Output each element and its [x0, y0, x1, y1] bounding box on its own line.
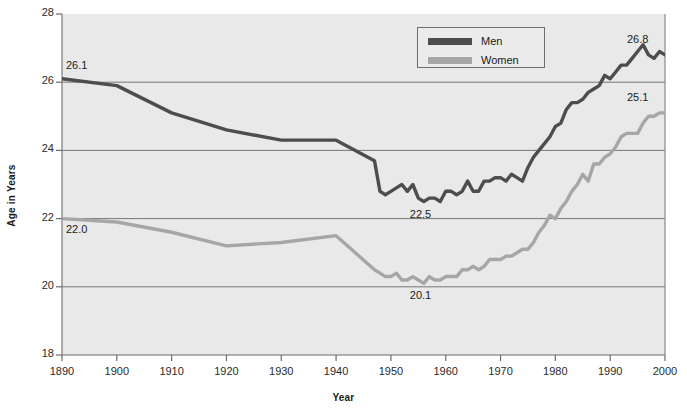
- y-tick-label: 22: [28, 211, 54, 223]
- y-tick-label: 20: [28, 279, 54, 291]
- y-tick-label: 28: [28, 6, 54, 18]
- x-tick-label: 1910: [150, 365, 194, 377]
- x-axis-title: Year: [0, 392, 687, 403]
- y-tick-label: 18: [28, 347, 54, 359]
- y-axis-title: Age in Years: [6, 146, 17, 246]
- plot-background: [62, 14, 665, 355]
- x-tick-label: 1950: [369, 365, 413, 377]
- legend-item-women: Women: [428, 54, 519, 66]
- x-tick-label: 1890: [40, 365, 84, 377]
- data-label-men-26-1: 26.1: [66, 59, 87, 71]
- x-tick-label: 1930: [259, 365, 303, 377]
- legend-item-men: Men: [428, 35, 502, 47]
- x-tick-label: 1980: [533, 365, 577, 377]
- data-label-men-26-8: 26.8: [627, 33, 648, 45]
- x-tick-label: 1960: [424, 365, 468, 377]
- chart-plot-area: [0, 0, 687, 414]
- legend-label-women: Women: [481, 54, 519, 66]
- x-tick-label: 1900: [95, 365, 139, 377]
- data-label-men-22-5: 22.5: [410, 208, 431, 220]
- legend-label-men: Men: [481, 35, 502, 47]
- legend-swatch-women: [428, 57, 472, 64]
- y-tick-label: 24: [28, 142, 54, 154]
- x-tick-label: 1920: [204, 365, 248, 377]
- data-label-women-22-0: 22.0: [66, 223, 87, 235]
- chart-legend: Men Women: [417, 27, 545, 68]
- x-tick-label: 1940: [314, 365, 358, 377]
- line-chart: 182022242628 189019001910192019301940195…: [0, 0, 687, 414]
- data-label-women-20-1: 20.1: [410, 289, 431, 301]
- x-tick-label: 2000: [643, 365, 687, 377]
- legend-swatch-men: [428, 38, 472, 45]
- y-tick-label: 26: [28, 74, 54, 86]
- x-tick-label: 1990: [588, 365, 632, 377]
- x-tick-label: 1970: [479, 365, 523, 377]
- data-label-women-25-1: 25.1: [627, 91, 648, 103]
